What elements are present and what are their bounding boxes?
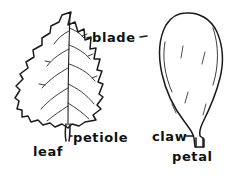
blade-leader-left — [87, 37, 91, 38]
leaf-veinlet-d — [45, 61, 50, 62]
blade-leader-right — [140, 36, 147, 37]
label-petal: petal — [172, 150, 213, 163]
leaf-petiole — [65, 124, 66, 141]
petal-inner-right-contour — [213, 28, 218, 85]
label-leaf: leaf — [33, 145, 63, 158]
label-petiole: petiole — [73, 131, 128, 144]
leaf-veinlet-b — [88, 54, 93, 56]
petal-drawing — [160, 13, 223, 147]
leaf-veinlet-e — [39, 84, 45, 85]
leaf-vein-right-2 — [69, 45, 90, 59]
petal-shade-stroke-4 — [203, 104, 206, 115]
leaf-vein-left-2 — [47, 49, 69, 66]
leaf-vein-right-3 — [69, 64, 95, 81]
botanical-diagram: blade petiole leaf claw petal — [0, 0, 237, 181]
leaf-veinlet-c — [92, 76, 97, 78]
leaf-drawing — [15, 12, 103, 141]
leaf-blade-outline — [15, 12, 103, 128]
petal-shade-stroke-2 — [202, 52, 205, 64]
label-claw: claw — [152, 130, 187, 143]
leaf-vein-right-4 — [68, 84, 94, 104]
petal-shade-stroke-3 — [185, 92, 188, 103]
petal-blade-outline — [160, 13, 223, 147]
label-blade: blade — [92, 31, 136, 44]
leaf-vein-left-5 — [47, 106, 68, 121]
leaf-vein-left-1 — [54, 31, 69, 44]
leaf-vein-right-5 — [68, 103, 89, 119]
leaf-vein-left-4 — [41, 88, 68, 109]
leaf-vein-left-3 — [42, 68, 68, 88]
petal-shade-stroke-1 — [181, 46, 183, 58]
